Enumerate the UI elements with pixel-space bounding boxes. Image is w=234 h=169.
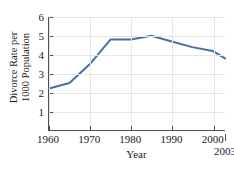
- gridline-horizontal: [49, 93, 225, 94]
- x-axis-title: Year: [48, 148, 225, 160]
- gridline-horizontal: [49, 55, 225, 56]
- axis-end-tick: [225, 134, 226, 141]
- y-axis-tick-label: 3: [30, 68, 44, 80]
- y-axis-tick-label: 1: [30, 106, 44, 118]
- y-axis-tick-label: 5: [30, 30, 44, 42]
- gridline-vertical: [49, 17, 50, 130]
- x-axis-tick-label: 1980: [119, 133, 141, 145]
- gridline-vertical: [172, 17, 173, 130]
- x-axis-tick-label: 1990: [160, 133, 182, 145]
- y-axis-title-line-1: Divorce Rate per: [9, 31, 20, 103]
- x-axis-tick-label: 2000: [202, 133, 224, 145]
- x-axis-tick: [131, 126, 132, 131]
- gridline-horizontal: [49, 17, 225, 18]
- x-axis-tick: [49, 126, 50, 131]
- y-axis-tick-label: 2: [30, 87, 44, 99]
- gridline-vertical: [214, 17, 215, 130]
- x-axis-tick-label: 1970: [78, 133, 100, 145]
- x-axis-tick-label: 1960: [37, 133, 59, 145]
- axis-end-label: 2003: [214, 145, 234, 157]
- y-axis-tick-labels: 123456: [30, 17, 44, 131]
- gridline-vertical: [90, 17, 91, 130]
- x-axis-tick-labels: 19601970198019902000: [48, 133, 225, 149]
- plot-area: [48, 17, 225, 131]
- x-axis-tick: [214, 126, 215, 131]
- divorce-rate-line-chart: Divorce Rate per 1000 Population 123456 …: [0, 0, 234, 169]
- x-axis-tick: [172, 126, 173, 131]
- gridline-vertical: [131, 17, 132, 130]
- gridline-horizontal: [49, 36, 225, 37]
- y-axis-tick-label: 4: [30, 49, 44, 61]
- gridline-horizontal: [49, 74, 225, 75]
- gridline-horizontal: [49, 112, 225, 113]
- series-polyline: [49, 36, 225, 89]
- y-axis-tick-label: 6: [30, 11, 44, 23]
- x-axis-tick: [90, 126, 91, 131]
